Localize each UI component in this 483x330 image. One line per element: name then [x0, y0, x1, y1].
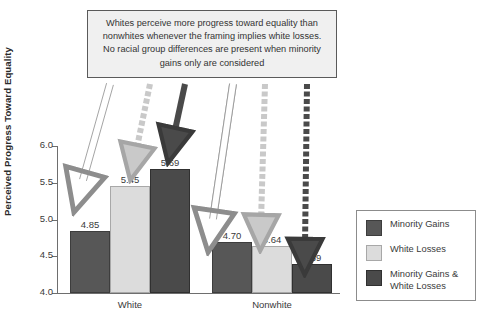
y-tick-label: 4.0	[40, 286, 53, 297]
legend-item-label: Minority Gains	[390, 219, 449, 231]
arrow-white-white-losses	[136, 84, 150, 152]
bar-white-white-losses[interactable]: 5.45	[110, 186, 150, 293]
x-axis-label-nonwhite: Nonwhite	[252, 299, 292, 310]
plot-area: 4.0 4.5 5.0 5.5 6.0 4.85 5.45 5.69 4.70 …	[57, 146, 340, 293]
chart-legend: Minority Gains White Losses Minority Gai…	[356, 210, 476, 301]
legend-item-label: Minority Gains & White Losses	[390, 269, 468, 292]
legend-item-minority-gains[interactable]: Minority Gains	[366, 219, 468, 236]
legend-item-both[interactable]: Minority Gains & White Losses	[366, 269, 468, 292]
bar-white-both[interactable]: 5.69	[150, 169, 190, 293]
bar-nonwhite-white-losses[interactable]: 4.64	[252, 246, 292, 293]
y-tick-label: 5.5	[40, 176, 53, 187]
bar-nonwhite-both[interactable]: 4.39	[292, 264, 332, 293]
bar-value-label: 4.70	[223, 230, 242, 241]
bar-value-label: 5.45	[121, 174, 140, 185]
y-tick-label: 5.0	[40, 213, 53, 224]
y-tick-label: 4.5	[40, 249, 53, 260]
annotation-text: Whites perceive more progress toward equ…	[103, 18, 322, 68]
bar-white-minority-gains[interactable]: 4.85	[70, 231, 110, 294]
y-tick-label: 6.0	[40, 139, 53, 150]
x-axis-label-white: White	[118, 299, 142, 310]
bar-nonwhite-minority-gains[interactable]: 4.70	[212, 242, 252, 294]
arrow-white-both	[174, 84, 185, 135]
legend-item-white-losses[interactable]: White Losses	[366, 244, 468, 261]
bar-value-label: 4.39	[303, 252, 322, 263]
legend-swatch-icon	[366, 220, 382, 236]
legend-swatch-icon	[366, 245, 382, 261]
annotation-callout: Whites perceive more progress toward equ…	[87, 10, 337, 78]
bar-value-label: 4.85	[81, 219, 100, 230]
legend-swatch-icon	[366, 270, 382, 286]
x-axis-line	[57, 293, 340, 294]
y-axis-title: Perceived Progress Toward Equality	[2, 7, 13, 257]
bar-value-label: 5.69	[161, 157, 180, 168]
bar-value-label: 4.64	[263, 234, 282, 245]
legend-item-label: White Losses	[390, 244, 446, 256]
